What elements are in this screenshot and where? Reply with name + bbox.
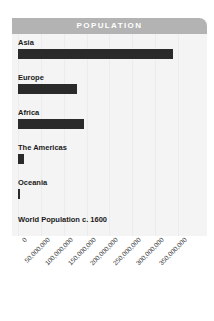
gridline bbox=[87, 34, 88, 236]
bar-label: The Americas bbox=[18, 143, 67, 152]
population-bar-chart: POPULATION AsiaEuropeAfricaThe AmericasO… bbox=[0, 0, 214, 321]
bar-label: Asia bbox=[18, 38, 34, 47]
plot-area: AsiaEuropeAfricaThe AmericasOceania Worl… bbox=[12, 34, 207, 236]
chart-title: POPULATION bbox=[12, 21, 207, 31]
gridline bbox=[18, 34, 19, 236]
bar bbox=[18, 49, 173, 59]
bar bbox=[18, 84, 77, 94]
bar-label: Oceania bbox=[18, 178, 47, 187]
x-tick-label: 0 bbox=[20, 236, 28, 244]
gridline bbox=[41, 34, 42, 236]
bar-label: Africa bbox=[18, 108, 39, 117]
bar bbox=[18, 119, 84, 129]
gridline bbox=[178, 34, 179, 236]
bar bbox=[18, 189, 20, 199]
bar-label: Europe bbox=[18, 73, 44, 82]
chart-header-bar: POPULATION bbox=[12, 18, 207, 34]
gridline bbox=[109, 34, 110, 236]
bar bbox=[18, 154, 24, 164]
gridline bbox=[132, 34, 133, 236]
chart-caption: World Population c. 1600 bbox=[18, 215, 107, 224]
gridline bbox=[64, 34, 65, 236]
x-axis: 050,000,000100,000,000150,000,000200,000… bbox=[12, 236, 207, 321]
gridline bbox=[155, 34, 156, 236]
